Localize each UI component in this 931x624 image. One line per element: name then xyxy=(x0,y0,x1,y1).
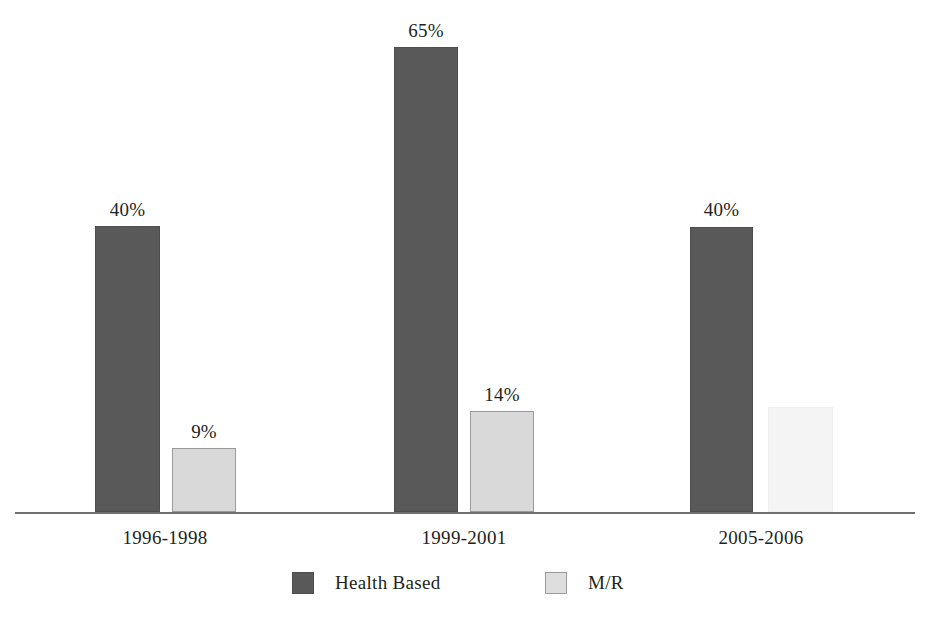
bar-value-label-health-based-2005-2006: 40% xyxy=(680,200,763,219)
legend-swatch-icon xyxy=(545,572,567,594)
bar-value-label-health-based-1999-2001: 65% xyxy=(384,21,468,40)
bar-health-based-1996-1998 xyxy=(95,226,160,512)
bar-chart: 40%9%65%14%40% 1996-19981999-20012005-20… xyxy=(0,0,931,624)
bar-mr-2005-2006 xyxy=(768,407,833,512)
x-axis-line xyxy=(15,512,915,514)
legend-swatch-icon xyxy=(292,572,314,594)
bar-value-label-mr-1999-2001: 14% xyxy=(460,385,544,404)
bar-mr-1999-2001 xyxy=(470,411,534,512)
legend-label: M/R xyxy=(588,572,624,594)
plot-area: 40%9%65%14%40% xyxy=(0,0,931,520)
category-label-2005-2006: 2005-2006 xyxy=(701,527,821,549)
bar-health-based-2005-2006 xyxy=(690,227,753,512)
bar-mr-1996-1998 xyxy=(172,448,236,512)
legend-item-m-r[interactable]: M/R xyxy=(545,572,624,594)
legend-label: Health Based xyxy=(335,572,440,594)
bar-value-label-health-based-1996-1998: 40% xyxy=(85,200,170,219)
chart-legend: Health BasedM/R xyxy=(0,572,931,606)
category-label-1996-1998: 1996-1998 xyxy=(105,527,225,549)
category-label-1999-2001: 1999-2001 xyxy=(404,527,524,549)
legend-item-health-based[interactable]: Health Based xyxy=(292,572,440,594)
bar-value-label-mr-1996-1998: 9% xyxy=(162,422,246,441)
bar-health-based-1999-2001 xyxy=(394,47,458,512)
